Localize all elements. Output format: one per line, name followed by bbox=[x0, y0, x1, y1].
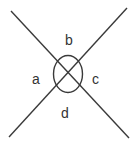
label-a: a bbox=[32, 71, 40, 87]
label-d: d bbox=[61, 105, 69, 121]
angle-circle bbox=[54, 56, 83, 93]
line-top-left-to-bottom-right bbox=[11, 11, 129, 138]
label-b: b bbox=[65, 32, 73, 48]
intersecting-lines-diagram: b a c d bbox=[0, 0, 136, 148]
label-c: c bbox=[92, 71, 99, 87]
